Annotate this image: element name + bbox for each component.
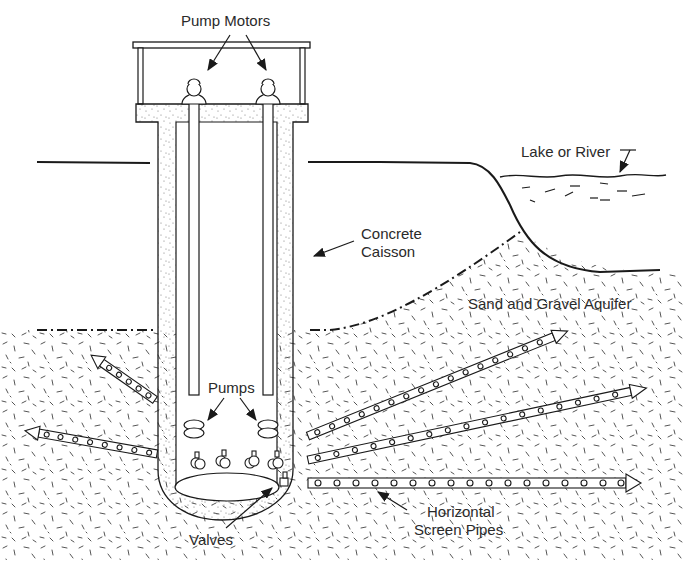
- pump-left-icon: [184, 420, 204, 438]
- valve-box-icon: [280, 478, 288, 486]
- label-pump-motors: Pump Motors: [181, 12, 270, 29]
- lake-water-ripples: [522, 183, 645, 202]
- label-lake-or-river: Lake or River: [521, 143, 610, 160]
- pump-column-left: [189, 100, 199, 395]
- aquifer-region: [0, 232, 683, 560]
- pump-motor-left-icon: [182, 79, 206, 104]
- arrow-concrete-caisson: [314, 241, 354, 256]
- arrow-lake-river: [620, 150, 630, 172]
- label-aquifer: Sand and Gravel Aquifer: [468, 295, 631, 312]
- label-valves: Valves: [189, 531, 233, 548]
- ground-surface-line: [37, 162, 660, 272]
- label-concrete-caisson-line2: Caisson: [361, 243, 415, 260]
- label-concrete-caisson-line1: Concrete: [361, 225, 422, 242]
- arrow-pump-motor-right: [246, 35, 266, 70]
- label-screen-pipes-line2: Screen Pipes: [414, 521, 503, 538]
- pump-motor-right-icon: [256, 79, 280, 104]
- lake-water-surface: [500, 175, 666, 178]
- pump-column-right: [263, 100, 273, 395]
- collector-well-diagram: Pump Motors Lake or River Concrete Caiss…: [0, 0, 683, 588]
- pump-right-icon: [258, 420, 278, 438]
- arrow-pump-motor-left: [208, 35, 230, 70]
- label-screen-pipes-line1: Horizontal: [427, 503, 495, 520]
- pump-house: [133, 42, 310, 104]
- caisson-floor: [175, 473, 279, 501]
- label-pumps: Pumps: [208, 379, 255, 396]
